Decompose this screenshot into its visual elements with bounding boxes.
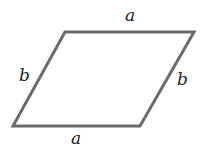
label-top-side: a — [125, 5, 135, 25]
parallelogram-shape — [13, 32, 194, 126]
label-left-side: b — [19, 65, 30, 85]
label-bottom-side: a — [71, 128, 81, 148]
parallelogram-diagram: a b b a — [0, 0, 201, 153]
label-right-side: b — [177, 69, 188, 89]
